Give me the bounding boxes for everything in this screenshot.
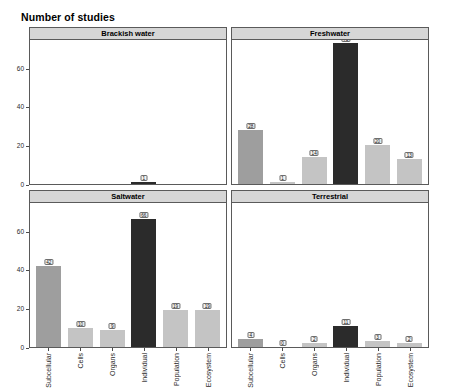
x-axis-tick: Ecosystem	[394, 348, 426, 388]
bar-slot: 42	[33, 203, 65, 347]
y-axis-tick-label: 20	[17, 143, 26, 150]
bar-value-label: 66	[139, 212, 148, 218]
bar-value-label: 11	[341, 319, 350, 325]
bar-organs[interactable]: 9	[100, 330, 125, 347]
bar-value-label: 10	[76, 321, 85, 327]
x-axis-tick-label: Ecosystem	[407, 353, 414, 387]
bar-value-label: 3	[374, 334, 381, 340]
plot-area-terrestrial: 4021132	[231, 203, 429, 348]
bar-slot	[33, 40, 65, 184]
x-axis-tick-label: Organs	[311, 353, 318, 376]
bar-subcellular[interactable]: 4	[238, 339, 263, 347]
x-axis-tick-label: Ecosystem	[205, 353, 212, 387]
bar-slot: 19	[191, 203, 223, 347]
x-axis-tick: Ecosystem	[192, 348, 224, 388]
bar-subcellular[interactable]: 28	[238, 130, 263, 184]
bar-slot: 14	[298, 40, 330, 184]
bar-cells[interactable]: 10	[68, 328, 93, 347]
bar-value-label: 73	[341, 40, 350, 42]
x-axis-tick-mark	[314, 348, 315, 351]
bar-subcellular[interactable]: 42	[36, 266, 61, 347]
y-axis-tick-mark	[26, 232, 29, 233]
x-axis-tick-mark	[144, 348, 145, 351]
plot-area-saltwater: 42109661919	[29, 203, 227, 348]
x-axis-tick: Individual	[330, 348, 362, 388]
panel-strip-label: Brackish water	[101, 30, 154, 38]
x-axis-bottom-left: SubcellularCellsOrgansIndividualPopulati…	[29, 348, 227, 388]
chart-title: Number of studies	[21, 11, 115, 23]
x-axis-tick-label: Cells	[77, 353, 84, 369]
x-axis-tick: Cells	[266, 348, 298, 388]
x-axis-tick-mark	[410, 348, 411, 351]
bar-value-label: 19	[203, 303, 212, 309]
y-axis-tick-mark	[26, 309, 29, 310]
panel-strip-freshwater: Freshwater	[231, 27, 429, 40]
bar-slot: 2	[298, 203, 330, 347]
panel-strip-label: Freshwater	[310, 30, 350, 38]
x-axis-tick-mark	[80, 348, 81, 351]
bar-slot: 20	[362, 40, 394, 184]
y-axis-tick-mark	[26, 146, 29, 147]
y-axis-tick-label: 0	[20, 345, 26, 352]
y-axis-tick-mark	[26, 270, 29, 271]
bar-organs[interactable]: 14	[302, 157, 327, 184]
bars-container: 42109661919	[30, 203, 226, 347]
bar-population[interactable]: 20	[365, 145, 390, 184]
bar-value-label: 1	[140, 175, 147, 181]
bar-value-label: 19	[171, 303, 180, 309]
y-axis-tick-mark	[26, 185, 29, 186]
bar-cells[interactable]: 1	[270, 182, 295, 184]
bar-slot: 1	[267, 40, 299, 184]
panel-terrestrial: Terrestrial 4021132 SubcellularCellsOrga…	[231, 190, 429, 388]
bar-value-label: 28	[246, 123, 255, 129]
plot-area-brackish-water: 1	[29, 40, 227, 185]
x-axis-tick: Population	[160, 348, 192, 388]
bar-individual[interactable]: 11	[333, 326, 358, 347]
bar-ecosystem[interactable]: 19	[195, 310, 220, 347]
plot-area-freshwater: 28114732013	[231, 40, 429, 185]
x-axis-ticks: SubcellularCellsOrgansIndividualPopulati…	[29, 348, 227, 388]
bar-value-label: 42	[44, 259, 53, 265]
y-axis-top-left: 0204060	[0, 40, 29, 185]
panel-strip-label: Terrestrial	[312, 193, 348, 201]
bar-individual[interactable]: 73	[333, 43, 358, 184]
bar-value-label: 4	[247, 332, 254, 338]
y-axis-tick-label: 60	[17, 229, 26, 236]
bars-container: 28114732013	[232, 40, 428, 184]
bar-slot	[65, 40, 97, 184]
x-axis-tick: Subcellular	[32, 348, 64, 388]
bar-slot: 19	[160, 203, 192, 347]
x-axis-tick-label: Organs	[109, 353, 116, 376]
x-axis-tick-label: Population	[375, 353, 382, 386]
bar-individual[interactable]: 66	[131, 219, 156, 347]
bar-value-label: 2	[311, 336, 318, 342]
x-axis-tick: Organs	[96, 348, 128, 388]
bar-ecosystem[interactable]: 2	[397, 343, 422, 347]
x-axis-tick: Subcellular	[234, 348, 266, 388]
bar-value-label: 14	[310, 150, 319, 156]
bar-slot: 13	[393, 40, 425, 184]
bar-slot	[96, 40, 128, 184]
bar-individual[interactable]: 1	[131, 182, 156, 184]
bar-value-label: 20	[373, 138, 382, 144]
bars-container: 1	[30, 40, 226, 184]
x-axis-tick-mark	[48, 348, 49, 351]
x-axis-tick-mark	[346, 348, 347, 351]
panel-strip-brackish-water: Brackish water	[29, 27, 227, 40]
bar-ecosystem[interactable]: 13	[397, 159, 422, 184]
bar-value-label: 2	[406, 336, 413, 342]
bar-organs[interactable]: 2	[302, 343, 327, 347]
panel-brackish-water: Brackish water 1 0204060	[29, 27, 227, 189]
panel-strip-label: Saltwater	[111, 193, 144, 201]
bar-population[interactable]: 3	[365, 341, 390, 347]
y-axis-tick-label: 60	[17, 66, 26, 73]
bar-slot: 2	[393, 203, 425, 347]
bar-population[interactable]: 19	[163, 310, 188, 347]
bar-slot: 73	[330, 40, 362, 184]
x-axis-tick: Cells	[64, 348, 96, 388]
x-axis-tick-label: Individual	[343, 353, 350, 383]
x-axis-tick: Organs	[298, 348, 330, 388]
x-axis-tick: Population	[362, 348, 394, 388]
x-axis-tick-label: Individual	[141, 353, 148, 383]
bar-slot: 3	[362, 203, 394, 347]
